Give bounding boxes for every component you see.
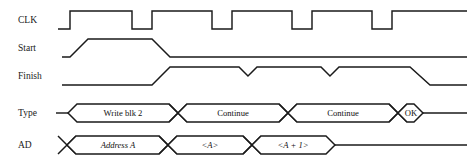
waveform-canvas: CLK Start Finish Type AD Write blk 2 [0,0,472,167]
signal-label-start: Start [18,43,36,53]
clk-trace [58,11,467,29]
waveform-clk [58,11,467,29]
signal-label-clk: CLK [18,15,37,25]
type-bus-cell-label: Write blk 2 [104,108,143,118]
waveform-ad: Address A <A> <A + 1> [58,136,467,154]
type-bus-cell-label: OK [405,108,418,118]
signal-label-type: Type [18,108,37,118]
start-trace [62,39,467,57]
waveform-type: Write blk 2 Continue Continue OK [56,104,467,122]
ad-bus-cell-label: <A + 1> [277,140,308,150]
ad-bus-cell-label: <A> [202,140,219,150]
waveform-start [62,39,467,57]
finish-trace [62,67,467,85]
signal-label-finish: Finish [18,71,42,81]
ad-bus-cell-label: Address A [100,140,136,150]
waveform-finish [62,67,467,85]
signal-label-ad: AD [18,140,32,150]
timing-diagram: CLK Start Finish Type AD Write blk 2 [0,0,472,167]
type-bus-cell-label: Continue [327,108,359,118]
type-bus-cell-label: Continue [217,108,249,118]
